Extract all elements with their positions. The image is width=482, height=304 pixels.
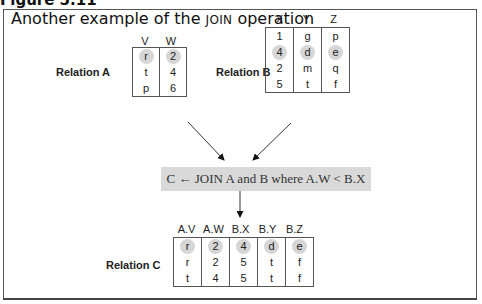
table-cell: r bbox=[174, 254, 202, 270]
table-cell: e bbox=[292, 239, 307, 254]
table-cell: 5 bbox=[230, 254, 258, 270]
table-row: r 2 4 d e bbox=[174, 238, 314, 255]
relation-c-table: r 2 4 d e r 2 5 t f t 4 5 t f bbox=[173, 237, 314, 287]
table-cell: f bbox=[286, 270, 314, 287]
table-cell: 2 bbox=[208, 239, 223, 254]
table-cell: 4 bbox=[202, 270, 230, 287]
relation-c-header: A.V A.W B.X B.Y B.Z bbox=[173, 223, 308, 235]
column-header: A.V bbox=[173, 223, 200, 235]
arrow-from-b bbox=[253, 123, 291, 160]
relation-c-label: Relation C bbox=[106, 259, 160, 271]
table-row: t 4 5 t f bbox=[174, 270, 314, 287]
table-cell: f bbox=[286, 254, 314, 270]
join-operation-box: C ← JOIN A and B where A.W < B.X bbox=[161, 167, 371, 191]
table-cell: r bbox=[180, 239, 195, 254]
table-cell: t bbox=[258, 254, 286, 270]
table-cell: t bbox=[174, 270, 202, 287]
column-header: A.W bbox=[200, 223, 227, 235]
column-header: B.Z bbox=[281, 223, 308, 235]
table-cell: 2 bbox=[202, 254, 230, 270]
table-cell: 4 bbox=[236, 239, 251, 254]
table-cell: 5 bbox=[230, 270, 258, 287]
table-cell: t bbox=[258, 270, 286, 287]
table-cell: d bbox=[264, 239, 279, 254]
column-header: B.X bbox=[227, 223, 254, 235]
table-row: r 2 5 t f bbox=[174, 254, 314, 270]
arrow-from-a bbox=[188, 122, 224, 160]
column-header: B.Y bbox=[254, 223, 281, 235]
